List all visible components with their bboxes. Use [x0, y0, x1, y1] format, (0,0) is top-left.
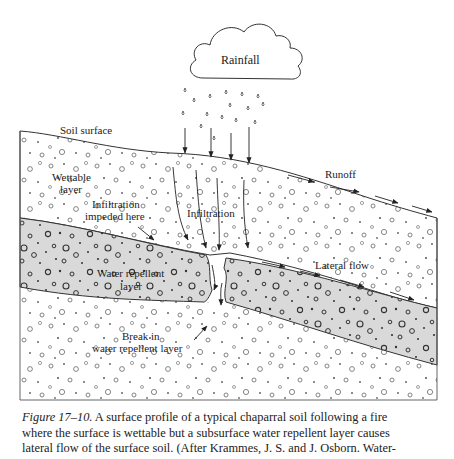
lateral-flow-label: Lateral flow: [315, 259, 369, 271]
infiltration-impeded-label-line1: Infiltration: [92, 198, 140, 210]
raindrops-icon: [182, 88, 264, 140]
wettable-layer-label-line1: Wettable: [52, 171, 91, 183]
cloud-icon: [190, 24, 302, 79]
infiltration-label: Infiltration: [187, 207, 235, 219]
soil-surface-label: Soil surface: [60, 124, 112, 136]
runoff-label: Runoff: [325, 168, 356, 180]
water-repellent-label-line1: Water repellent: [97, 267, 164, 279]
break-label-line2: water repellent layer: [92, 342, 182, 354]
rainfall-label: Rainfall: [221, 54, 260, 66]
caption-line-2: where the surface is wettable but a subs…: [22, 426, 450, 442]
figure-number: Figure 17–10.: [22, 410, 92, 424]
caption-line-1-text: A surface profile of a typical chaparral…: [92, 410, 387, 424]
infiltration-impeded-label-line2: impeded here: [85, 210, 145, 222]
figure-caption: Figure 17–10. A surface profile of a typ…: [22, 410, 450, 457]
wettable-layer-label-line2: layer: [60, 183, 82, 195]
water-repellent-label-line2: layer: [120, 280, 142, 292]
soil-profile-diagram: Rainfall Soil surface Runoff Wettable la…: [0, 0, 454, 405]
caption-line-3: lateral flow of the surface soil. (After…: [22, 441, 450, 457]
break-label-line1: Break in: [122, 330, 160, 342]
caption-line-1: Figure 17–10. A surface profile of a typ…: [22, 410, 450, 426]
